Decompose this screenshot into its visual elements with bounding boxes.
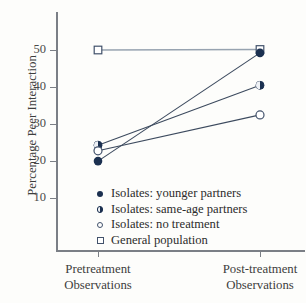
marker-general-population-pre [94,46,102,54]
marker-no-treatment-pre [94,147,102,155]
series-line-general-population [98,50,260,51]
open-square-icon [92,237,108,244]
half-filled-circle-icon [92,206,108,213]
legend-label: Isolates: no treatment [111,217,219,232]
plot-area [0,0,306,303]
legend-item-general-population: General population [92,233,247,249]
legend-label: General population [111,233,208,248]
legend-label: Isolates: younger partners [111,186,241,201]
legend-item-no-treatment: Isolates: no treatment [92,217,247,233]
open-circle-icon [92,222,108,229]
series-line-same-age-partners [98,85,260,145]
filled-circle-icon [92,191,108,197]
marker-younger-partners-pre [94,157,103,166]
marker-younger-partners-post [256,49,265,58]
legend-item-same-age-partners: Isolates: same-age partners [92,202,247,218]
chart-figure: Percentage Peer Interaction 50 40 30 20 … [0,0,306,303]
marker-no-treatment-post [256,111,264,119]
chart-legend: Isolates: younger partners Isolates: sam… [92,186,247,248]
legend-item-younger-partners: Isolates: younger partners [92,186,247,202]
legend-label: Isolates: same-age partners [111,202,247,217]
series-line-no-treatment [98,115,260,151]
